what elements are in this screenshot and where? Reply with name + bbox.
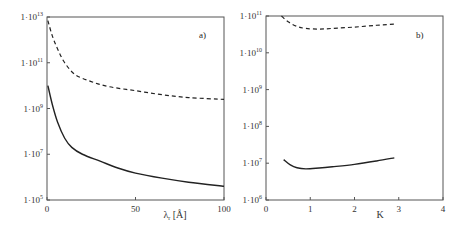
y-tick-label: 1·105	[24, 194, 44, 205]
series-dashed-line	[281, 16, 394, 29]
y-tick-label: 1·1011	[240, 10, 262, 21]
x-tick-label: 3	[397, 204, 402, 214]
y-tick-label: 1·107	[243, 157, 263, 168]
y-tick-label: 1·1011	[21, 57, 43, 68]
x-tick-label: 50	[131, 204, 141, 214]
series-solid-line	[284, 158, 395, 169]
y-tick-label: 1·107	[24, 148, 44, 159]
x-tick-label: 0	[264, 204, 269, 214]
chart-figure: 1·1051·1071·1091·10111·1013050100λr [Å]a…	[0, 0, 468, 231]
panel-a: 1·1051·1071·1091·10111·1013050100λr [Å]a…	[21, 11, 232, 221]
x-tick-label: 100	[217, 204, 231, 214]
series-solid-line	[48, 86, 224, 187]
series-dashed-line	[48, 21, 224, 100]
y-tick-label: 1·106	[243, 194, 263, 205]
panel-label: a)	[199, 30, 206, 40]
y-tick-label: 1·109	[24, 103, 44, 114]
y-tick-label: 1·1010	[240, 47, 263, 58]
y-tick-label: 1·1013	[21, 11, 44, 22]
x-tick-label: 1	[308, 204, 313, 214]
x-tick-label: 0	[45, 204, 50, 214]
x-tick-label: 2	[352, 204, 357, 214]
plot-frame	[266, 16, 443, 200]
panel-label: b)	[416, 30, 424, 40]
panel-b: 1·1061·1071·1081·1091·10101·101101234Kb)	[240, 10, 446, 220]
x-axis-label: λr [Å]	[163, 209, 186, 221]
y-tick-label: 1·109	[243, 84, 263, 95]
x-tick-label: 4	[441, 204, 446, 214]
y-tick-label: 1·108	[243, 120, 263, 131]
x-axis-label: K	[376, 209, 384, 220]
